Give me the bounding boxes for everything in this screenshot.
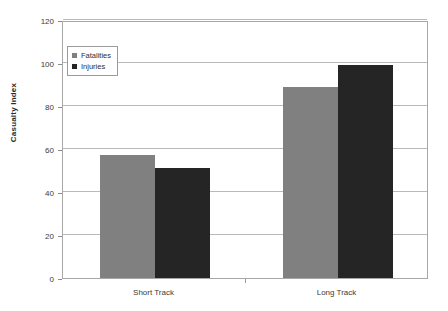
y-tick-label: 20 bbox=[26, 232, 54, 241]
y-tick-mark bbox=[58, 279, 62, 280]
y-tick-label: 60 bbox=[26, 146, 54, 155]
legend-item-label: Fatalities bbox=[81, 51, 111, 60]
legend-item-fatalities[interactable]: Fatalities bbox=[72, 50, 111, 61]
y-tick-label: 0 bbox=[26, 275, 54, 284]
x-tick-label: Short Track bbox=[94, 288, 214, 297]
gridline bbox=[63, 19, 427, 20]
y-tick-label: 120 bbox=[26, 17, 54, 26]
casualty-index-bar-chart: Casualty Index 020406080100120 Short Tra… bbox=[0, 0, 448, 311]
x-tick-mark bbox=[245, 279, 246, 283]
y-axis-title: Casualty Index bbox=[9, 48, 18, 178]
bar-fatalities-long-track[interactable] bbox=[283, 87, 338, 278]
bar-injuries-short-track[interactable] bbox=[155, 168, 210, 278]
bar-injuries-long-track[interactable] bbox=[338, 65, 393, 278]
legend-swatch-icon bbox=[72, 53, 77, 58]
y-tick-label: 40 bbox=[26, 189, 54, 198]
legend-item-injuries[interactable]: Injuries bbox=[72, 61, 111, 72]
legend-swatch-icon bbox=[72, 64, 77, 69]
legend-item-label: Injuries bbox=[81, 62, 105, 71]
y-tick-label: 100 bbox=[26, 60, 54, 69]
y-tick-label: 80 bbox=[26, 103, 54, 112]
x-tick-label: Long Track bbox=[277, 288, 397, 297]
chart-legend: FatalitiesInjuries bbox=[67, 46, 118, 76]
bar-fatalities-short-track[interactable] bbox=[100, 155, 155, 278]
